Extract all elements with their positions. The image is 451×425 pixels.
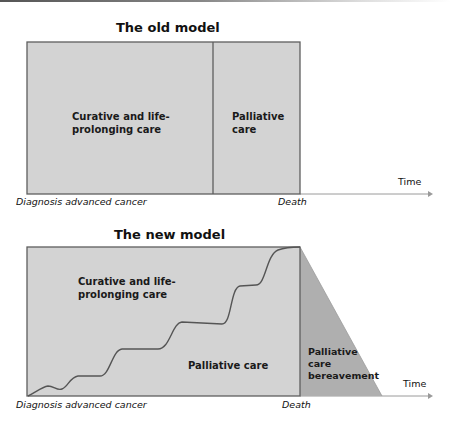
old-time-label: Time xyxy=(398,176,421,187)
old-death-label: Death xyxy=(278,196,307,207)
new-time-label: Time xyxy=(403,378,426,389)
new-death-label: Death xyxy=(282,399,311,410)
old-curative-label: Curative and life- prolonging care xyxy=(72,110,170,136)
new-palliative-label: Palliative care xyxy=(188,359,268,372)
new-curative-label: Curative and life- prolonging care xyxy=(78,275,176,301)
new-diagnosis-label: Diagnosis advanced cancer xyxy=(16,399,147,410)
new-time-arrowhead-icon xyxy=(428,393,433,399)
old-diagnosis-label: Diagnosis advanced cancer xyxy=(16,196,147,207)
old-time-arrowhead-icon xyxy=(428,191,433,197)
new-model-title: The new model xyxy=(114,227,225,242)
old-palliative-label: Palliative care xyxy=(232,110,284,136)
new-model-box xyxy=(27,247,300,396)
bereavement-label: Palliative care bereavement xyxy=(308,346,379,382)
